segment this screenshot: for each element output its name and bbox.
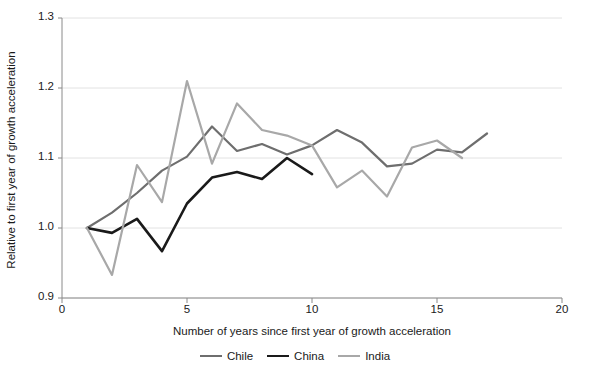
series-line-chile bbox=[87, 127, 487, 229]
legend-swatch-icon bbox=[200, 355, 222, 357]
series-lines bbox=[87, 81, 487, 275]
legend-item-india[interactable]: India bbox=[338, 350, 390, 362]
series-line-india bbox=[87, 81, 462, 275]
x-tick-label: 0 bbox=[42, 303, 82, 315]
legend-item-china[interactable]: China bbox=[267, 350, 324, 362]
x-tick-label: 10 bbox=[292, 303, 332, 315]
legend-label: India bbox=[365, 350, 390, 362]
x-tick-label: 5 bbox=[167, 303, 207, 315]
y-tick-label: 1.0 bbox=[20, 220, 54, 232]
legend-label: Chile bbox=[227, 350, 253, 362]
legend-label: China bbox=[294, 350, 324, 362]
gridlines bbox=[62, 18, 562, 298]
line-chart: Relative to first year of growth acceler… bbox=[0, 0, 590, 375]
legend-item-chile[interactable]: Chile bbox=[200, 350, 253, 362]
x-axis-title: Number of years since first year of grow… bbox=[62, 325, 562, 337]
y-tick-label: 1.2 bbox=[20, 80, 54, 92]
legend-swatch-icon bbox=[338, 355, 360, 357]
chart-legend: ChileChinaIndia bbox=[0, 350, 590, 362]
x-tick-label: 20 bbox=[542, 303, 582, 315]
legend-swatch-icon bbox=[267, 355, 289, 357]
y-tick-label: 1.1 bbox=[20, 150, 54, 162]
y-tick-label: 0.9 bbox=[20, 290, 54, 302]
x-tick-label: 15 bbox=[417, 303, 457, 315]
plot-area bbox=[0, 0, 590, 375]
tick-marks bbox=[58, 18, 562, 303]
y-tick-label: 1.3 bbox=[20, 10, 54, 22]
